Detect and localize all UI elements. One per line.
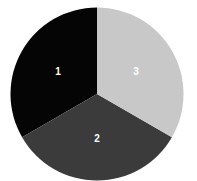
pie-label-1: 1 (55, 66, 61, 77)
pie-chart: 123 (0, 0, 197, 181)
pie-label-3: 3 (133, 66, 139, 77)
pie-label-2: 2 (94, 133, 100, 144)
pie-slices (10, 8, 183, 181)
